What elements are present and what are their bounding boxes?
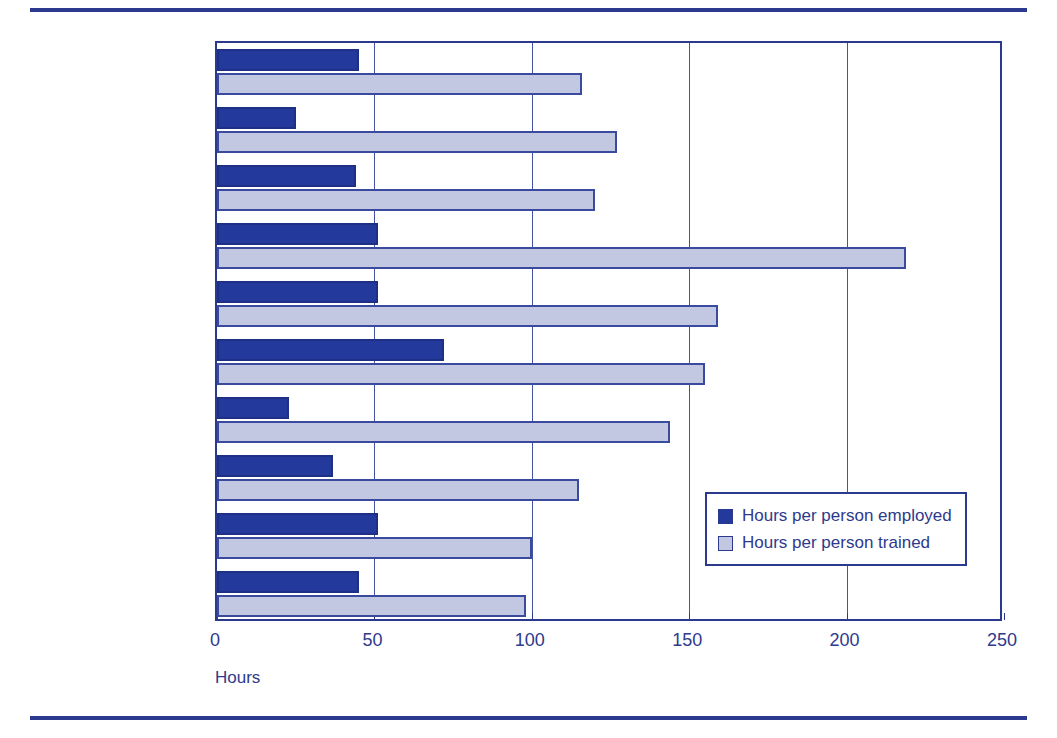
bar	[217, 131, 617, 153]
bar	[217, 513, 378, 535]
bar	[217, 397, 289, 419]
gridline-100	[532, 43, 533, 619]
bar	[217, 455, 333, 477]
tick-mark-100	[532, 613, 533, 620]
bar	[217, 107, 296, 129]
top-rule	[30, 8, 1027, 12]
legend-swatch-icon	[718, 509, 733, 524]
bar	[217, 73, 582, 95]
bar	[217, 189, 595, 211]
x-tick-label-100: 100	[515, 630, 545, 651]
tick-mark-200	[847, 613, 848, 620]
legend-item: Hours per person trained	[718, 533, 952, 553]
bar	[217, 281, 378, 303]
legend-label: Hours per person trained	[742, 533, 930, 553]
legend-label: Hours per person employed	[742, 506, 952, 526]
x-tick-label-0: 0	[210, 630, 220, 651]
bar	[217, 363, 705, 385]
bar	[217, 421, 670, 443]
legend-swatch-icon	[718, 536, 733, 551]
x-tick-label-150: 150	[672, 630, 702, 651]
bar	[217, 571, 359, 593]
tick-mark-150	[689, 613, 690, 620]
chart-figure: AustraliaBelgium (Flanders)CanadaIreland…	[0, 0, 1057, 738]
bar	[217, 537, 532, 559]
bar	[217, 49, 359, 71]
legend-item: Hours per person employed	[718, 506, 952, 526]
bar	[217, 223, 378, 245]
tick-mark-250	[1004, 613, 1005, 620]
bar	[217, 305, 718, 327]
bar	[217, 595, 526, 617]
x-axis-title: Hours	[215, 668, 260, 688]
x-tick-label-250: 250	[987, 630, 1017, 651]
bar	[217, 247, 906, 269]
bar	[217, 165, 356, 187]
chart-legend: Hours per person employedHours per perso…	[705, 492, 967, 566]
gridline-150	[689, 43, 690, 619]
bar	[217, 479, 579, 501]
bar	[217, 339, 444, 361]
bottom-rule	[30, 716, 1027, 720]
x-tick-label-200: 200	[830, 630, 860, 651]
x-tick-label-50: 50	[362, 630, 382, 651]
